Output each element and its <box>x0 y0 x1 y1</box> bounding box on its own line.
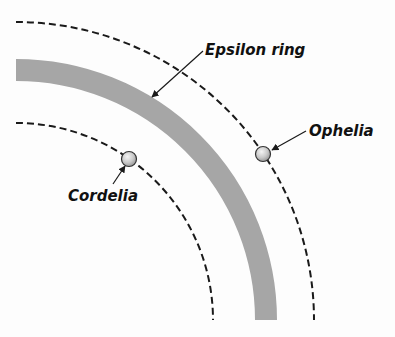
ophelia-moon-icon <box>256 147 271 162</box>
epsilon-ring-label: Epsilon ring <box>205 41 306 59</box>
cordelia-leader <box>113 166 125 184</box>
epsilon-ring <box>16 70 266 320</box>
cordelia-moon-icon <box>122 152 137 167</box>
ophelia-label: Ophelia <box>309 122 374 140</box>
epsilon-ring-diagram: Epsilon ring Ophelia Cordelia <box>0 0 395 337</box>
cordelia-label: Cordelia <box>68 187 138 205</box>
cordelia-orbit <box>16 123 213 320</box>
ophelia-leader <box>272 131 306 150</box>
